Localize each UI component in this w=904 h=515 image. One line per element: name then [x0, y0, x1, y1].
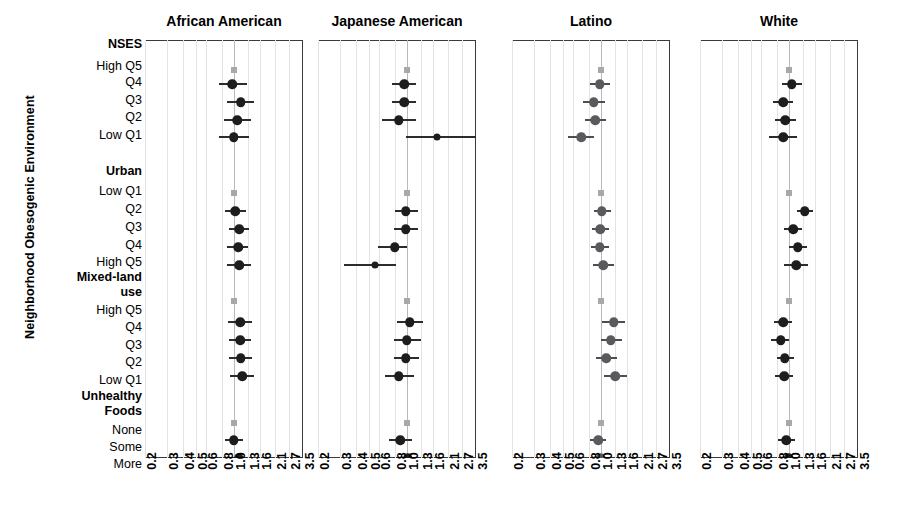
- forest-plot-figure: Neighborhood Obesogenic Environment NSES…: [0, 0, 904, 515]
- row-label: Q4: [30, 321, 142, 333]
- estimate-marker: [781, 435, 791, 445]
- estimate-marker: [229, 435, 239, 445]
- estimate-marker: [390, 242, 400, 252]
- estimate-marker: [232, 115, 242, 125]
- panel-japanese-american: Japanese American0.20.30.40.50.60.81.01.…: [318, 40, 476, 458]
- x-tick-label: 0.2: [318, 452, 332, 469]
- reference-marker: [231, 420, 237, 426]
- gridline: [830, 40, 831, 458]
- x-tick-label: 1.0: [789, 452, 803, 469]
- row-label: Low Q1: [30, 185, 142, 197]
- row-label: High Q5: [30, 304, 142, 316]
- estimate-marker: [233, 242, 243, 252]
- x-axis-ticks: 0.20.30.40.50.60.81.01.31.62.12.73.5: [318, 459, 476, 515]
- gridline: [563, 40, 564, 458]
- estimate-marker: [793, 242, 803, 252]
- reference-marker: [231, 298, 237, 304]
- reference-marker: [598, 190, 604, 196]
- row-label: Q2: [30, 203, 142, 215]
- gridline: [275, 40, 276, 458]
- confidence-interval: [406, 136, 476, 138]
- row-label: Q4: [30, 76, 142, 88]
- gridline: [145, 40, 146, 458]
- gridline: [738, 40, 739, 458]
- estimate-marker: [236, 97, 246, 107]
- x-tick-label: 3.5: [670, 452, 684, 469]
- panel-white: White0.20.30.40.50.60.81.01.31.62.12.73.…: [700, 40, 858, 458]
- x-tick-label: 0.6: [573, 452, 587, 469]
- x-tick-label: 3.5: [858, 452, 872, 469]
- gridline: [803, 40, 804, 458]
- gridline: [433, 40, 434, 458]
- gridline: [196, 40, 197, 458]
- estimate-marker: [788, 224, 798, 234]
- x-tick-label: 2.1: [275, 452, 289, 469]
- x-tick-label: 3.5: [303, 452, 317, 469]
- estimate-marker: [394, 115, 404, 125]
- gridline: [167, 40, 168, 458]
- gridline: [615, 40, 616, 458]
- x-tick-label: 0.3: [167, 452, 181, 469]
- panel-title: Japanese American: [318, 13, 476, 29]
- estimate-marker: [776, 335, 786, 345]
- x-tick-label: 1.6: [627, 452, 641, 469]
- x-tick-label: 2.7: [289, 452, 303, 469]
- estimate-marker: [229, 132, 239, 142]
- estimate-marker: [781, 115, 791, 125]
- x-tick-label: 2.1: [642, 452, 656, 469]
- reference-marker: [231, 67, 237, 73]
- estimate-marker: [227, 79, 237, 89]
- row-label: More: [30, 458, 142, 470]
- gridline: [222, 40, 223, 458]
- x-tick-label: 2.1: [448, 452, 462, 469]
- x-tick-label: 0.6: [379, 452, 393, 469]
- plot-area: [145, 40, 303, 458]
- gridline: [369, 40, 370, 458]
- gridline: [356, 40, 357, 458]
- estimate-marker: [778, 317, 788, 327]
- row-label: Q3: [30, 339, 142, 351]
- estimate-marker: [231, 206, 241, 216]
- plot-area: [700, 40, 858, 458]
- x-tick-label: 2.7: [844, 452, 858, 469]
- row-label: Q4: [30, 239, 142, 251]
- reference-marker: [786, 67, 792, 73]
- reference-marker: [598, 298, 604, 304]
- estimate-marker: [237, 371, 247, 381]
- estimate-marker: [611, 371, 621, 381]
- gridline: [534, 40, 535, 458]
- x-tick-label: 1.0: [407, 452, 421, 469]
- plot-area: [512, 40, 670, 458]
- estimate-marker: [402, 335, 412, 345]
- row-label: Unhealthy: [30, 390, 142, 402]
- estimate-marker: [235, 335, 245, 345]
- gridline: [260, 40, 261, 458]
- x-tick-label: 0.6: [206, 452, 220, 469]
- x-tick-label: 3.5: [476, 452, 490, 469]
- estimate-marker: [235, 317, 245, 327]
- x-tick-label: 0.2: [512, 452, 526, 469]
- row-label: Q2: [30, 111, 142, 123]
- gridline: [656, 40, 657, 458]
- panel-title: White: [700, 13, 858, 29]
- gridline: [462, 40, 463, 458]
- estimate-marker: [595, 79, 605, 89]
- estimate-marker: [800, 206, 810, 216]
- estimate-marker: [791, 260, 801, 270]
- gridline: [248, 40, 249, 458]
- x-tick-label: 1.6: [433, 452, 447, 469]
- reference-marker: [231, 190, 237, 196]
- estimate-marker: [236, 353, 246, 363]
- row-label: High Q5: [30, 256, 142, 268]
- x-tick-label: 0.3: [340, 452, 354, 469]
- estimate-marker: [609, 317, 619, 327]
- gridline: [550, 40, 551, 458]
- panel-latino: Latino0.20.30.40.50.60.81.01.31.62.12.73…: [512, 40, 670, 458]
- gridline: [340, 40, 341, 458]
- gridline: [448, 40, 449, 458]
- estimate-marker: [399, 79, 409, 89]
- row-label: Q2: [30, 356, 142, 368]
- estimate-marker: [576, 132, 586, 142]
- gridline: [815, 40, 816, 458]
- confidence-interval: [344, 264, 396, 266]
